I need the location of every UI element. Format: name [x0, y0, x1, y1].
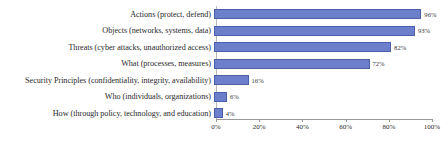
- bar: [214, 92, 227, 102]
- bar-zone: 93%: [214, 25, 448, 37]
- chart-row: Who (individuals, organizations)6%: [0, 91, 448, 103]
- chart-rows: Actions (protect, defend)96%Objects (net…: [0, 8, 448, 119]
- axis-tick: [389, 119, 390, 122]
- bar: [214, 9, 421, 19]
- bar: [214, 75, 249, 85]
- bar-value-label: 4%: [226, 110, 235, 117]
- axis-tick-label: 60%: [339, 123, 352, 132]
- axis-tick: [432, 119, 433, 122]
- axis-tick: [259, 119, 260, 122]
- bar: [214, 42, 391, 52]
- axis-tick-labels: 0%20%40%60%80%100%: [216, 123, 432, 135]
- axis-tick-label: 20%: [253, 123, 266, 132]
- category-label: How (through policy, technology, and edu…: [0, 109, 214, 118]
- bar-value-label: 96%: [424, 11, 436, 18]
- bar-chart: Actions (protect, defend)96%Objects (net…: [0, 0, 448, 150]
- category-label: Objects (networks, systems, data): [0, 26, 214, 35]
- bar-value-label: 72%: [373, 60, 385, 67]
- axis-tick-label: 0%: [211, 123, 220, 132]
- category-label: Threats (cyber attacks, unauthorized acc…: [0, 43, 214, 52]
- chart-row: How (through policy, technology, and edu…: [0, 107, 448, 119]
- chart-row: What (processes, measures)72%: [0, 58, 448, 70]
- bar-value-label: 82%: [394, 44, 406, 51]
- axis-tick: [216, 119, 217, 122]
- bar-zone: 82%: [214, 41, 448, 53]
- axis-tick-label: 100%: [424, 123, 440, 132]
- bar: [214, 108, 223, 118]
- bar: [214, 59, 370, 69]
- category-label: Who (individuals, organizations): [0, 92, 214, 101]
- chart-row: Security Principles (confidentiality, in…: [0, 74, 448, 86]
- axis-tick: [302, 119, 303, 122]
- bar-value-label: 6%: [230, 93, 239, 100]
- bar-value-label: 16%: [252, 77, 264, 84]
- axis-tick: [346, 119, 347, 122]
- chart-row: Objects (networks, systems, data)93%: [0, 25, 448, 37]
- bar-value-label: 93%: [418, 27, 430, 34]
- category-label: What (processes, measures): [0, 59, 214, 68]
- axis-tick-label: 40%: [296, 123, 309, 132]
- category-label: Actions (protect, defend): [0, 10, 214, 19]
- bar-zone: 4%: [214, 107, 448, 119]
- bar: [214, 26, 415, 36]
- bar-zone: 72%: [214, 58, 448, 70]
- chart-row: Actions (protect, defend)96%: [0, 8, 448, 20]
- axis-tick-label: 80%: [382, 123, 395, 132]
- category-label: Security Principles (confidentiality, in…: [0, 76, 214, 85]
- bar-zone: 16%: [214, 74, 448, 86]
- chart-row: Threats (cyber attacks, unauthorized acc…: [0, 41, 448, 53]
- bar-zone: 6%: [214, 91, 448, 103]
- bar-zone: 96%: [214, 8, 448, 20]
